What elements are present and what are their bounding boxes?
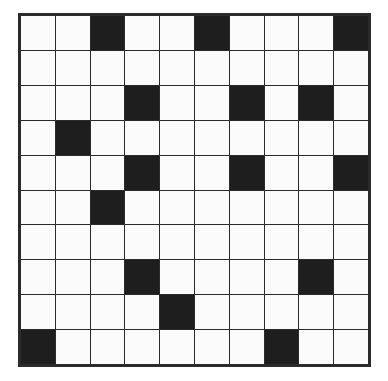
grid-cell-black[interactable] [334, 16, 368, 50]
grid-cell-white[interactable] [160, 156, 194, 190]
grid-cell-white[interactable] [91, 156, 125, 190]
grid-cell-white[interactable] [299, 121, 333, 155]
grid-cell-black[interactable] [160, 295, 194, 329]
grid-cell-white[interactable] [265, 191, 299, 225]
grid-cell-white[interactable] [299, 330, 333, 364]
grid-cell-white[interactable] [160, 260, 194, 294]
grid-cell-white[interactable] [91, 86, 125, 120]
grid-cell-black[interactable] [265, 330, 299, 364]
grid-cell-white[interactable] [334, 295, 368, 329]
grid-cell-white[interactable] [334, 86, 368, 120]
grid-cell-white[interactable] [195, 121, 229, 155]
grid-cell-white[interactable] [299, 225, 333, 259]
grid-cell-white[interactable] [160, 330, 194, 364]
grid-cell-white[interactable] [56, 86, 90, 120]
grid-cell-white[interactable] [195, 51, 229, 85]
grid-cell-black[interactable] [91, 191, 125, 225]
grid-cell-white[interactable] [334, 51, 368, 85]
grid-cell-white[interactable] [334, 260, 368, 294]
grid-cell-white[interactable] [21, 86, 55, 120]
grid-cell-white[interactable] [299, 156, 333, 190]
grid-cell-white[interactable] [160, 86, 194, 120]
grid-cell-white[interactable] [125, 16, 159, 50]
grid-cell-white[interactable] [21, 191, 55, 225]
grid-cell-white[interactable] [334, 330, 368, 364]
grid-cell-white[interactable] [160, 121, 194, 155]
grid-cell-white[interactable] [56, 16, 90, 50]
grid-cell-white[interactable] [160, 16, 194, 50]
grid-cell-white[interactable] [125, 295, 159, 329]
grid-cell-white[interactable] [195, 295, 229, 329]
grid-cell-white[interactable] [230, 121, 264, 155]
grid-cell-white[interactable] [91, 330, 125, 364]
grid-cell-white[interactable] [230, 330, 264, 364]
grid-cell-white[interactable] [56, 51, 90, 85]
grid-cell-white[interactable] [195, 191, 229, 225]
grid-cell-black[interactable] [195, 16, 229, 50]
grid-cell-white[interactable] [21, 225, 55, 259]
grid-cell-white[interactable] [195, 225, 229, 259]
grid-cell-white[interactable] [125, 51, 159, 85]
grid-cell-white[interactable] [195, 86, 229, 120]
grid-cell-white[interactable] [265, 121, 299, 155]
grid-cell-white[interactable] [125, 191, 159, 225]
grid-cell-white[interactable] [230, 260, 264, 294]
grid-cell-black[interactable] [230, 86, 264, 120]
grid-cell-black[interactable] [21, 330, 55, 364]
grid-cell-white[interactable] [265, 260, 299, 294]
grid-cell-black[interactable] [125, 260, 159, 294]
grid-cell-white[interactable] [91, 295, 125, 329]
grid-cell-white[interactable] [125, 330, 159, 364]
grid-cell-white[interactable] [160, 225, 194, 259]
grid-cell-white[interactable] [299, 191, 333, 225]
grid-cell-white[interactable] [125, 225, 159, 259]
grid-cell-black[interactable] [299, 86, 333, 120]
grid-cell-white[interactable] [160, 51, 194, 85]
grid-cell-black[interactable] [125, 156, 159, 190]
grid-cell-white[interactable] [21, 295, 55, 329]
grid-cell-white[interactable] [334, 225, 368, 259]
grid-cell-white[interactable] [230, 295, 264, 329]
grid-cell-white[interactable] [230, 225, 264, 259]
grid-cell-white[interactable] [265, 16, 299, 50]
grid-cell-white[interactable] [334, 191, 368, 225]
grid-cell-black[interactable] [125, 86, 159, 120]
grid-cell-white[interactable] [91, 51, 125, 85]
grid-cell-white[interactable] [21, 16, 55, 50]
grid-cell-white[interactable] [21, 51, 55, 85]
grid-cell-white[interactable] [265, 51, 299, 85]
grid-cell-white[interactable] [91, 121, 125, 155]
grid-cell-white[interactable] [299, 16, 333, 50]
grid-cell-white[interactable] [265, 86, 299, 120]
grid-cell-black[interactable] [299, 260, 333, 294]
grid-cell-black[interactable] [56, 121, 90, 155]
grid-cell-white[interactable] [299, 295, 333, 329]
grid-cell-white[interactable] [21, 260, 55, 294]
grid-cell-white[interactable] [230, 191, 264, 225]
grid-cell-white[interactable] [56, 330, 90, 364]
grid-cell-white[interactable] [56, 191, 90, 225]
grid-cell-white[interactable] [265, 225, 299, 259]
grid-cell-white[interactable] [230, 16, 264, 50]
grid-cell-white[interactable] [195, 156, 229, 190]
grid-cell-white[interactable] [265, 156, 299, 190]
grid-cell-white[interactable] [21, 156, 55, 190]
grid-cell-white[interactable] [230, 51, 264, 85]
grid-cell-white[interactable] [56, 225, 90, 259]
grid-cell-white[interactable] [125, 121, 159, 155]
grid-cell-white[interactable] [195, 260, 229, 294]
grid-cell-white[interactable] [21, 121, 55, 155]
grid-cell-white[interactable] [56, 156, 90, 190]
grid-cell-white[interactable] [56, 295, 90, 329]
grid-cell-white[interactable] [334, 121, 368, 155]
grid-cell-white[interactable] [56, 260, 90, 294]
grid-cell-black[interactable] [91, 16, 125, 50]
grid-cell-white[interactable] [265, 295, 299, 329]
grid-cell-white[interactable] [91, 260, 125, 294]
grid-cell-white[interactable] [160, 191, 194, 225]
grid-cell-white[interactable] [299, 51, 333, 85]
grid-cell-white[interactable] [195, 330, 229, 364]
grid-cell-black[interactable] [334, 156, 368, 190]
grid-cell-black[interactable] [230, 156, 264, 190]
grid-cell-white[interactable] [91, 225, 125, 259]
